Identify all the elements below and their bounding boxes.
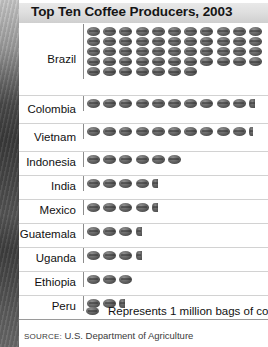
coffee-bean-icon bbox=[87, 37, 100, 46]
bean-group bbox=[83, 272, 268, 287]
coffee-bean-icon bbox=[152, 99, 165, 108]
coffee-bean-icon bbox=[103, 275, 116, 284]
coffee-bean-partial-icon bbox=[249, 99, 255, 108]
coffee-bean-icon bbox=[168, 37, 181, 46]
coffee-bean-icon bbox=[168, 47, 181, 56]
coffee-bean-icon bbox=[136, 37, 149, 46]
coffee-bean-icon bbox=[184, 27, 197, 36]
coffee-bean-icon bbox=[200, 37, 213, 46]
coffee-bean-icon bbox=[184, 127, 197, 136]
coffee-bean-icon bbox=[233, 47, 246, 56]
coffee-bean-icon bbox=[168, 57, 181, 66]
coffee-bean-icon bbox=[233, 37, 246, 46]
bean-group bbox=[83, 152, 268, 167]
coffee-bean-icon bbox=[119, 275, 132, 284]
coffee-bean-icon bbox=[152, 27, 165, 36]
coffee-bean-icon bbox=[119, 99, 132, 108]
coffee-bean-icon bbox=[103, 227, 116, 236]
coffee-bean-partial-icon bbox=[136, 251, 142, 260]
coffee-bean-icon bbox=[87, 179, 100, 188]
coffee-bean-icon bbox=[152, 67, 165, 76]
pictograph-row: Brazil bbox=[19, 24, 268, 96]
coffee-bean-icon bbox=[119, 47, 132, 56]
coffee-bean-icon bbox=[200, 27, 213, 36]
coffee-bean-icon bbox=[119, 251, 132, 260]
coffee-bean-icon bbox=[217, 99, 230, 108]
legend-label: Represents 1 million bags of coffee bbox=[108, 305, 268, 317]
coffee-bean-icon bbox=[136, 57, 149, 66]
coffee-bean-icon bbox=[119, 179, 132, 188]
coffee-bean-icon bbox=[168, 99, 181, 108]
source-note: SOURCE: U.S. Department of Agriculture bbox=[24, 330, 193, 341]
coffee-bean-partial-icon bbox=[152, 203, 158, 212]
pictograph-row: India bbox=[19, 176, 268, 200]
coffee-bean-icon bbox=[152, 37, 165, 46]
coffee-bean-icon bbox=[152, 155, 165, 164]
pictograph-row: Indonesia bbox=[19, 152, 268, 176]
coffee-bean-icon bbox=[152, 57, 165, 66]
coffee-bean-icon bbox=[217, 37, 230, 46]
coffee-bean-icon bbox=[119, 57, 132, 66]
coffee-bean-icon bbox=[200, 57, 213, 66]
row-label-peru: Peru bbox=[19, 296, 83, 312]
coffee-bean-icon bbox=[87, 57, 100, 66]
coffee-bean-icon bbox=[103, 251, 116, 260]
coffee-bean-icon bbox=[184, 37, 197, 46]
row-label-colombia: Colombia bbox=[19, 96, 83, 115]
coffee-bean-icon bbox=[152, 47, 165, 56]
coffee-bean-icon bbox=[233, 99, 246, 108]
coffee-bean-icon bbox=[103, 179, 116, 188]
coffee-bean-icon bbox=[249, 27, 262, 36]
coffee-bean-icon bbox=[217, 27, 230, 36]
coffee-bean-icon bbox=[103, 155, 116, 164]
coffee-bean-icon bbox=[87, 275, 100, 284]
coffee-bean-icon bbox=[136, 27, 149, 36]
pictograph-row: Guatemala bbox=[19, 224, 268, 248]
coffee-bean-icon bbox=[119, 155, 132, 164]
coffee-bean-partial-icon bbox=[152, 179, 158, 188]
pictograph-chart: BrazilColombiaVietnamIndonesiaIndiaMexic… bbox=[19, 24, 268, 300]
coffee-bean-icon bbox=[249, 57, 262, 66]
coffee-bean-icon bbox=[119, 37, 132, 46]
coffee-bean-icon bbox=[87, 203, 100, 212]
bean-group bbox=[83, 248, 268, 263]
coffee-bean-icon bbox=[87, 155, 100, 164]
coffee-bean-icon bbox=[87, 227, 100, 236]
coffee-bean-icon bbox=[184, 57, 197, 66]
coffee-bean-icon bbox=[103, 67, 116, 76]
coffee-bean-icon bbox=[119, 127, 132, 136]
source-text: U.S. Department of Agriculture bbox=[62, 330, 193, 341]
coffee-bean-icon bbox=[136, 67, 149, 76]
coffee-bean-icon bbox=[103, 203, 116, 212]
row-label-india: India bbox=[19, 176, 83, 192]
coffee-bean-icon bbox=[200, 99, 213, 108]
coffee-bean-icon bbox=[86, 307, 99, 316]
bean-group bbox=[83, 96, 268, 111]
bean-group bbox=[83, 224, 268, 239]
coffee-bean-icon bbox=[200, 127, 213, 136]
coffee-bean-icon bbox=[233, 127, 246, 136]
coffee-bean-partial-icon bbox=[249, 127, 253, 136]
pictograph-row: Mexico bbox=[19, 200, 268, 224]
pictograph-row: Colombia bbox=[19, 96, 268, 124]
coffee-bean-icon bbox=[103, 127, 116, 136]
coffee-bean-icon bbox=[168, 67, 181, 76]
row-label-mexico: Mexico bbox=[19, 200, 83, 216]
coffee-bean-icon bbox=[136, 155, 149, 164]
coffee-bean-icon bbox=[87, 67, 100, 76]
coffee-bean-icon bbox=[168, 27, 181, 36]
coffee-bean-icon bbox=[249, 37, 262, 46]
coffee-bean-icon bbox=[136, 47, 149, 56]
bean-group bbox=[83, 200, 268, 215]
coffee-bean-icon bbox=[103, 99, 116, 108]
coffee-bean-icon bbox=[168, 127, 181, 136]
coffee-bean-icon bbox=[217, 127, 230, 136]
row-label-vietnam: Vietnam bbox=[19, 124, 83, 143]
coffee-bean-icon bbox=[103, 37, 116, 46]
coffee-bean-icon bbox=[200, 47, 213, 56]
coffee-bean-icon bbox=[103, 47, 116, 56]
coffee-bean-icon bbox=[217, 47, 230, 56]
coffee-bean-icon bbox=[87, 27, 100, 36]
coffee-bean-icon bbox=[87, 127, 100, 136]
coffee-bean-icon bbox=[103, 57, 116, 66]
